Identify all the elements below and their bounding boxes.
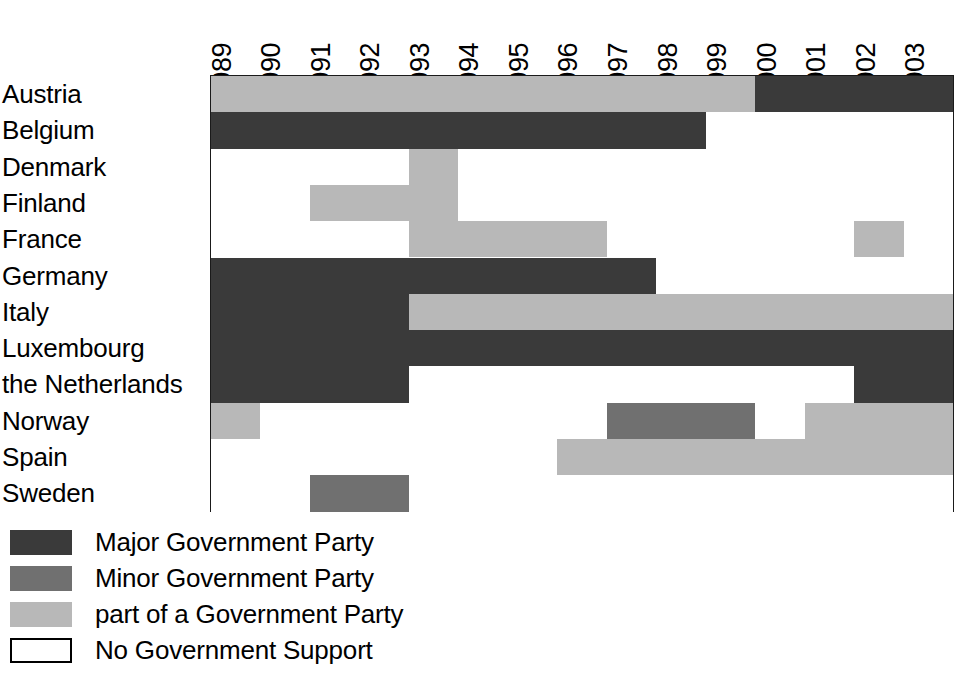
legend-swatch: [10, 566, 72, 591]
heatmap-cell: [260, 403, 309, 439]
year-axis-tick: 1997: [607, 0, 657, 76]
country-axis-label: Belgium: [2, 112, 208, 148]
heatmap-cell: [260, 76, 309, 112]
heatmap-cell: [211, 258, 260, 294]
heatmap-cell: [359, 76, 408, 112]
heatmap-cell: [260, 439, 309, 475]
heatmap-cell: [656, 112, 705, 148]
heatmap-cell: [854, 439, 903, 475]
heatmap-cell: [755, 475, 804, 511]
heatmap-cell: [755, 294, 804, 330]
heatmap-cell: [359, 185, 408, 221]
year-axis-tick: 1995: [508, 0, 558, 76]
heatmap-cell: [409, 149, 458, 185]
heatmap-cell: [656, 330, 705, 366]
heatmap-cell: [904, 76, 953, 112]
heatmap-cell: [854, 149, 903, 185]
heatmap-cell: [607, 149, 656, 185]
legend-swatch: [10, 602, 72, 627]
year-axis-tick: 1996: [558, 0, 608, 76]
heatmap-cell: [458, 439, 507, 475]
heatmap-cell: [656, 439, 705, 475]
heatmap-cell: [805, 112, 854, 148]
heatmap-cell: [458, 76, 507, 112]
heatmap-cell: [211, 439, 260, 475]
heatmap-cell: [260, 294, 309, 330]
heatmap-cell: [409, 185, 458, 221]
heatmap-cell: [409, 439, 458, 475]
heatmap-cell: [706, 149, 755, 185]
heatmap-cell: [508, 149, 557, 185]
year-axis: 1989199019911992199319941995199619971998…: [211, 0, 954, 76]
country-axis-label: Luxembourg: [2, 330, 208, 366]
heatmap-cell: [359, 112, 408, 148]
year-axis-tick: 1989: [211, 0, 261, 76]
country-axis: AustriaBelgiumDenmarkFinlandFranceGerman…: [0, 76, 208, 512]
year-axis-tick: 2000: [756, 0, 806, 76]
heatmap-cell: [359, 258, 408, 294]
heatmap-cell: [211, 112, 260, 148]
year-axis-tick: 2002: [855, 0, 905, 76]
heatmap-cell: [260, 258, 309, 294]
heatmap-cell: [706, 403, 755, 439]
heatmap-cell: [706, 330, 755, 366]
heatmap-cell: [706, 76, 755, 112]
country-axis-label: Austria: [2, 76, 208, 112]
legend-label: No Government Support: [95, 635, 373, 666]
legend-swatch: [10, 530, 72, 555]
country-axis-label: Spain: [2, 439, 208, 475]
heatmap-cell: [557, 294, 606, 330]
heatmap-cell: [310, 258, 359, 294]
heatmap-cell: [904, 112, 953, 148]
heatmap-cell: [656, 258, 705, 294]
heatmap-cell: [656, 403, 705, 439]
heatmap-cell: [359, 403, 408, 439]
year-axis-tick: 1994: [459, 0, 509, 76]
heatmap-cell: [211, 403, 260, 439]
heatmap-cell: [904, 403, 953, 439]
heatmap-cell: [854, 330, 903, 366]
heatmap-cell: [706, 439, 755, 475]
heatmap-cell: [904, 330, 953, 366]
heatmap-cell: [409, 475, 458, 511]
heatmap-cell: [755, 439, 804, 475]
heatmap-cell: [904, 221, 953, 257]
heatmap-cell: [458, 221, 507, 257]
heatmap-cell: [706, 294, 755, 330]
heatmap-cell: [904, 366, 953, 402]
heatmap-cell: [359, 366, 408, 402]
heatmap-cell: [607, 403, 656, 439]
heatmap-cell: [458, 475, 507, 511]
heatmap-cell: [805, 366, 854, 402]
heatmap-cell: [706, 185, 755, 221]
heatmap-cell: [458, 112, 507, 148]
heatmap-cell: [805, 403, 854, 439]
heatmap-cell: [409, 330, 458, 366]
heatmap-cell: [211, 185, 260, 221]
legend-label: Minor Government Party: [95, 563, 374, 594]
heatmap-cell: [854, 112, 903, 148]
heatmap-row: [211, 330, 953, 366]
heatmap-cell: [557, 330, 606, 366]
country-axis-label: Sweden: [2, 475, 208, 511]
year-axis-tick: 2003: [904, 0, 954, 76]
heatmap-cell: [755, 221, 804, 257]
heatmap-cell: [904, 294, 953, 330]
heatmap-cell: [409, 258, 458, 294]
heatmap-cell: [260, 330, 309, 366]
heatmap-cell: [656, 149, 705, 185]
heatmap-cell: [310, 330, 359, 366]
heatmap-cell: [904, 149, 953, 185]
heatmap-cell: [557, 185, 606, 221]
heatmap-cell: [805, 330, 854, 366]
heatmap-cell: [755, 330, 804, 366]
heatmap-row: [211, 403, 953, 439]
year-axis-tick: 1999: [706, 0, 756, 76]
heatmap-cell: [260, 112, 309, 148]
legend-label: Major Government Party: [95, 527, 374, 558]
heatmap-cell: [508, 294, 557, 330]
heatmap-cell: [755, 403, 804, 439]
heatmap-cell: [409, 76, 458, 112]
heatmap-cell: [409, 294, 458, 330]
heatmap-cell: [310, 439, 359, 475]
